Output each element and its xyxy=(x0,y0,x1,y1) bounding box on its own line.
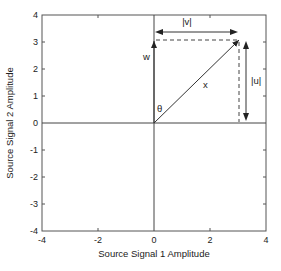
v-right-arrowhead-icon xyxy=(230,29,238,35)
v-left-arrowhead-icon xyxy=(155,29,163,35)
x-tick-neg4: -4 xyxy=(38,235,46,245)
y-tick-neg4: -4 xyxy=(30,226,38,236)
projection-diagram: 4 3 2 1 0 -1 -2 -3 -4 -4 -2 0 2 4 Source… xyxy=(0,0,281,271)
vector-x-arrow xyxy=(154,40,239,123)
u-top-arrowhead-icon xyxy=(243,41,249,49)
y-tick-neg2: -2 xyxy=(30,172,38,182)
x-tick-0: 0 xyxy=(151,235,156,245)
y-tick-labels: 4 3 2 1 0 -1 -2 -3 -4 xyxy=(30,10,38,236)
y-tick-0: 0 xyxy=(33,118,38,128)
x-tick-neg2: -2 xyxy=(94,235,102,245)
y-tick-2: 2 xyxy=(33,64,38,74)
u-magnitude-label: |u| xyxy=(251,75,261,86)
theta-angle-label: θ xyxy=(157,103,162,114)
x-tick-labels: -4 -2 0 2 4 xyxy=(38,235,269,245)
v-magnitude-label: |v| xyxy=(182,16,192,27)
y-tick-neg1: -1 xyxy=(30,145,38,155)
x-vector-label: x xyxy=(203,79,208,90)
w-vector-label: w xyxy=(142,51,150,62)
y-tick-1: 1 xyxy=(33,91,38,101)
x-axis-label: Source Signal 1 Amplitude xyxy=(98,248,209,259)
y-tick-3: 3 xyxy=(33,37,38,47)
x-tick-4: 4 xyxy=(263,235,268,245)
y-tick-neg3: -3 xyxy=(30,199,38,209)
y-tick-4: 4 xyxy=(33,10,38,20)
y-axis-label: Source Signal 2 Amplitude xyxy=(4,67,15,178)
x-tick-2: 2 xyxy=(207,235,212,245)
u-bottom-arrowhead-icon xyxy=(243,113,249,121)
